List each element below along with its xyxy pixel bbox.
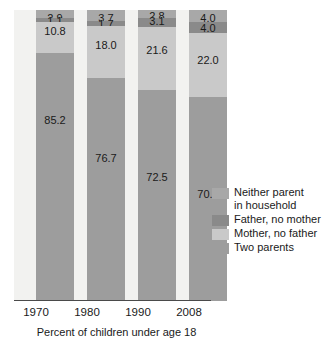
x-tick-1990: 1990 — [112, 306, 164, 318]
segment-two-parents-1990: 72.5 — [138, 90, 176, 301]
legend-label-mother-no-father: Mother, no father — [234, 227, 317, 240]
legend-swatch-mother-no-father — [212, 229, 229, 240]
legend-swatch-father-no-mother — [212, 215, 229, 226]
axis-caption: Percent of children under age 18 — [14, 326, 219, 338]
legend-label-father-no-mother: Father, no mother — [234, 213, 321, 226]
value-label-mother-1970: 10.8 — [36, 26, 74, 37]
legend-item-mother-no-father[interactable]: Mother, no father — [212, 227, 328, 240]
bar-1990[interactable]: 2.8 3.1 21.6 72.5 — [138, 10, 176, 301]
bar-1970[interactable]: 2.9 1.1 10.8 85.2 — [36, 10, 74, 301]
value-label-mother-2008: 22.0 — [189, 55, 227, 66]
segment-mother-no-father-1990: 21.6 — [138, 27, 176, 90]
value-label-mother-1980: 18.0 — [87, 40, 125, 51]
plot-area: 2.9 1.1 10.8 85.2 3.7 1.7 18.0 — [14, 10, 206, 301]
value-label-father-2008: 4.0 — [189, 23, 227, 34]
value-label-mother-1990: 21.6 — [138, 45, 176, 56]
segment-mother-no-father-2008: 22.0 — [189, 33, 227, 97]
value-label-two-parents-1970: 85.2 — [36, 115, 74, 126]
bar-2008[interactable]: 4.0 4.0 22.0 70.0 — [189, 10, 227, 301]
stacked-bar-chart: 2.9 1.1 10.8 85.2 3.7 1.7 18.0 — [0, 0, 328, 345]
segment-father-no-mother-2008: 4.0 — [189, 22, 227, 34]
segment-two-parents-1970: 85.2 — [36, 53, 74, 301]
value-label-two-parents-1990: 72.5 — [138, 172, 176, 183]
bar-1980[interactable]: 3.7 1.7 18.0 76.7 — [87, 10, 125, 301]
segment-mother-no-father-1980: 18.0 — [87, 26, 125, 78]
segment-two-parents-1980: 76.7 — [87, 78, 125, 301]
value-label-two-parents-1980: 76.7 — [87, 153, 125, 164]
legend-swatch-neither-parent — [212, 188, 229, 199]
legend-label-line1: Neither parent — [234, 186, 304, 198]
segment-neither-parent-2008: 4.0 — [189, 10, 227, 22]
legend-label-two-parents: Two parents — [234, 241, 294, 254]
segment-mother-no-father-1970: 10.8 — [36, 22, 74, 53]
chart-legend: Neither parent in household Father, no m… — [212, 186, 328, 255]
legend-item-father-no-mother[interactable]: Father, no mother — [212, 213, 328, 226]
x-tick-2008: 2008 — [163, 306, 215, 318]
x-tick-1980: 1980 — [61, 306, 113, 318]
value-label-father-1990: 3.1 — [138, 16, 176, 27]
legend-swatch-two-parents — [212, 243, 229, 254]
legend-item-neither-parent[interactable]: Neither parent in household — [212, 186, 328, 212]
x-tick-1970: 1970 — [10, 306, 62, 318]
legend-item-two-parents[interactable]: Two parents — [212, 241, 328, 254]
x-axis-line — [14, 300, 211, 301]
legend-label-neither-parent: Neither parent in household — [234, 186, 304, 212]
legend-label-line2: in household — [234, 199, 304, 212]
segment-father-no-mother-1990: 3.1 — [138, 18, 176, 27]
